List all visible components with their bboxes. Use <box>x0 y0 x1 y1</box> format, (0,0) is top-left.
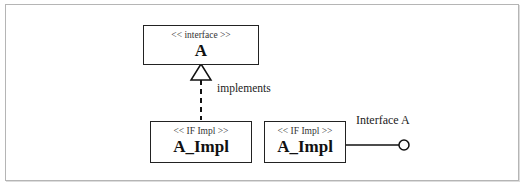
realization-label: implements <box>217 82 271 94</box>
class-name: A_Impl <box>151 137 251 157</box>
impl-box-left[interactable]: << IF Impl >> A_Impl <box>150 121 252 163</box>
lollipop-label: Interface A <box>356 113 410 128</box>
class-name: A_Impl <box>265 137 345 157</box>
realization-arrowhead-icon <box>191 64 211 80</box>
stereotype-label: << interface >> <box>144 30 258 41</box>
lollipop-circle-icon <box>399 140 409 150</box>
interface-box[interactable]: << interface >> A <box>143 25 259 65</box>
impl-box-right[interactable]: << IF Impl >> A_Impl <box>264 121 346 163</box>
stereotype-label: << IF Impl >> <box>265 126 345 137</box>
class-name: A <box>144 41 258 61</box>
stereotype-label: << IF Impl >> <box>151 126 251 137</box>
